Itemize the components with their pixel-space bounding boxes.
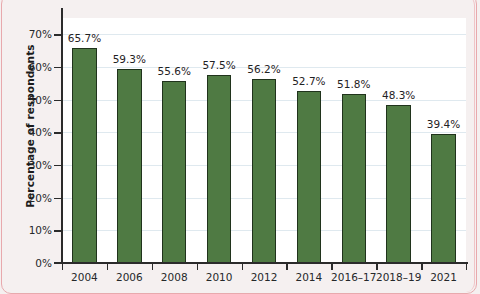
- y-axis-tick-label: 0%: [0, 258, 52, 269]
- y-axis-tick: [54, 198, 62, 199]
- y-axis-tick: [54, 132, 62, 133]
- bar-value-label: 65.7%: [54, 33, 114, 44]
- bar: [207, 75, 231, 263]
- y-axis-tick-label: 30%: [0, 160, 52, 171]
- x-axis-tick: [107, 262, 108, 270]
- bar-value-label: 48.3%: [369, 90, 429, 101]
- y-axis-tick: [54, 67, 62, 68]
- x-axis-tick: [152, 262, 153, 270]
- y-axis-spine: [61, 8, 63, 264]
- x-axis-tick: [376, 262, 377, 270]
- x-axis-tick: [242, 262, 243, 270]
- bar-value-label: 56.2%: [234, 64, 294, 75]
- gridline: [62, 34, 466, 35]
- y-axis-tick-label: 40%: [0, 127, 52, 138]
- bar-value-label: 59.3%: [99, 54, 159, 65]
- y-axis-tick: [54, 263, 62, 264]
- x-axis-tick: [421, 262, 422, 270]
- bar: [431, 134, 455, 263]
- y-axis-tick-label: 70%: [0, 29, 52, 40]
- bar: [386, 105, 410, 263]
- y-axis-tick: [54, 100, 62, 101]
- y-axis-tick: [54, 230, 62, 231]
- x-axis-spine: [54, 262, 468, 264]
- x-axis-tick: [62, 262, 63, 270]
- x-axis-tick-label: 2021: [414, 272, 474, 283]
- bar-chart-figure: Percentage of respondents 0%10%20%30%40%…: [0, 0, 480, 294]
- bar: [342, 94, 366, 263]
- bar-value-label: 51.8%: [324, 79, 384, 90]
- y-axis-tick-label: 50%: [0, 95, 52, 106]
- x-axis-tick: [466, 262, 467, 270]
- x-axis-tick: [286, 262, 287, 270]
- x-axis-tick: [331, 262, 332, 270]
- bar-value-label: 39.4%: [414, 119, 474, 130]
- bar: [72, 48, 96, 263]
- bar: [162, 81, 186, 263]
- y-axis-tick-label: 10%: [0, 225, 52, 236]
- bar: [252, 79, 276, 263]
- bar: [117, 69, 141, 263]
- x-axis-tick: [197, 262, 198, 270]
- y-axis-tick-label: 60%: [0, 62, 52, 73]
- y-axis-tick-label: 20%: [0, 193, 52, 204]
- bar: [297, 91, 321, 263]
- y-axis-tick: [54, 165, 62, 166]
